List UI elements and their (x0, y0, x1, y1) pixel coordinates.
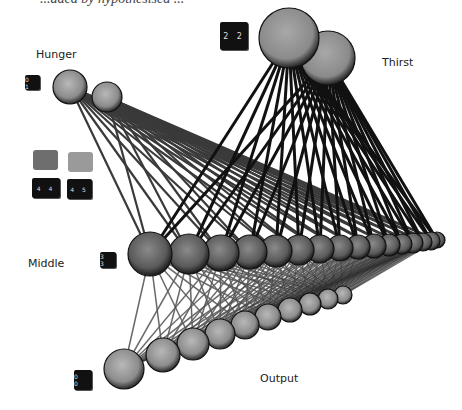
header-cut-text: ...aded by hypothesised ... (40, 0, 184, 7)
middle-label: Middle (28, 257, 64, 270)
output-node (177, 328, 209, 360)
hunger-label: Hunger (36, 48, 77, 61)
output-label: Output (260, 372, 298, 385)
thirst-node (259, 8, 319, 68)
middle-node (169, 234, 209, 274)
network-visualization: ...aded by hypothesised ... Hunger Thirs… (0, 0, 462, 410)
output-cube-icon: 0 0 (74, 370, 92, 390)
hunger-cube-icon: 0 1 (25, 75, 40, 90)
hunger-node (53, 70, 87, 104)
output-node (146, 338, 180, 372)
output-node (278, 298, 302, 322)
middle-cube-icon: 3 3 (100, 252, 116, 268)
legend-cube-a-icon: 4 4 (32, 178, 60, 198)
legend-cube-b-icon: 4 5 (67, 179, 92, 199)
thirst-label: Thirst (382, 56, 413, 69)
hunger-node (92, 82, 122, 112)
middle-node (128, 232, 172, 276)
connection (107, 97, 320, 249)
thirst-cube-icon: 2 2 (220, 22, 248, 50)
legend-swatch-b (68, 152, 93, 172)
input-middle-connections (70, 38, 437, 254)
output-node (104, 349, 144, 389)
legend-swatch-a (33, 150, 58, 170)
